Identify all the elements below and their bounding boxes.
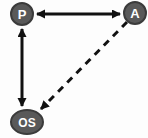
node-os: OS [11,110,43,134]
node-a-label: A [130,6,140,21]
node-p: P [11,3,33,25]
process-diagram: P A OS [0,0,148,138]
edge-a-os [41,22,127,109]
diagram-canvas: P A OS [0,0,148,138]
node-p-label: P [18,7,27,22]
node-a: A [124,2,146,24]
node-os-label: OS [18,116,35,130]
